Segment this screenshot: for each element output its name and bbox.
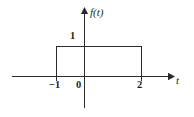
y-axis-arrowhead xyxy=(81,7,88,14)
x-tick-label-two: 2 xyxy=(137,80,142,91)
x-axis-arrowhead xyxy=(168,73,175,80)
x-axis-label: t xyxy=(176,75,179,86)
x-tick-label-zero: 0 xyxy=(76,80,81,91)
x-tick-label-minus-one: −1 xyxy=(49,80,60,91)
figure-container: f(t) t 1 −1 0 2 xyxy=(0,0,194,117)
amplitude-label-1: 1 xyxy=(70,31,75,42)
pulse-waveform xyxy=(57,47,142,77)
y-axis-label: f(t) xyxy=(90,7,103,18)
